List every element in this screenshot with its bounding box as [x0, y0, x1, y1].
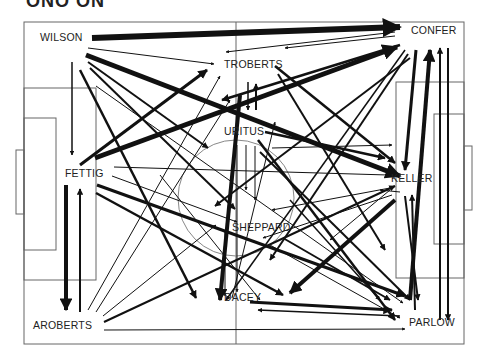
player-label-fettig: FETTIG [65, 167, 104, 179]
pass-arrow [258, 310, 400, 316]
pass-network-diagram: WILSONCONFERTROBERTSURITUSFETTIGKELLERSH… [0, 0, 490, 363]
pass-arrow [250, 302, 392, 310]
pass-arrow [283, 238, 390, 300]
player-label-uritus: URITUS [224, 125, 264, 137]
pass-arrow [104, 329, 405, 330]
right-goal [464, 146, 472, 210]
pass-arrow [285, 36, 395, 48]
pass-arrow [112, 176, 237, 222]
pass-arrow [272, 188, 390, 210]
pass-arrow [103, 225, 216, 316]
pass-arrow [290, 200, 395, 293]
pass-arrow [97, 185, 405, 296]
player-label-sheppard: SHEPPARD [232, 221, 291, 233]
left-goal [16, 150, 24, 214]
player-label-aroberts: AROBERTS [33, 319, 92, 331]
pass-arrow [405, 50, 416, 170]
pass-arrow [114, 167, 388, 175]
pass-arrow [96, 193, 283, 295]
player-label-keller: KELLER [391, 172, 433, 184]
pass-arrow [90, 68, 235, 209]
player-label-dacey: DACEY [224, 291, 261, 303]
player-label-troberts: TROBERTS [224, 58, 283, 70]
pass-arrow [88, 62, 208, 148]
player-label-parlow: PARLOW [409, 316, 455, 328]
left-penalty-box [24, 88, 96, 280]
pass-arrow [86, 55, 400, 176]
pass-arrow [232, 122, 275, 298]
player-label-confer: CONFER [411, 24, 457, 36]
player-label-wilson: WILSON [40, 31, 83, 43]
pass-arrow [92, 27, 400, 38]
left-goal-box [24, 118, 56, 250]
